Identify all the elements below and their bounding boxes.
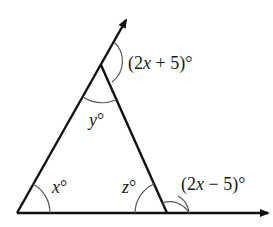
arc-left-interior: [33, 184, 50, 213]
label-left-interior: x°: [51, 177, 67, 197]
triangle-diagram: (2x + 5)° y° x° z° (2x − 5)°: [0, 0, 273, 227]
label-right-exterior: (2x − 5)°: [181, 174, 245, 195]
label-right-interior: z°: [121, 177, 136, 197]
label-apex-interior: y°: [87, 110, 104, 130]
arc-apex-interior: [83, 97, 116, 103]
label-top-exterior: (2x + 5)°: [128, 53, 192, 74]
arc-right-interior: [135, 184, 154, 213]
arc-top-exterior: [112, 42, 122, 82]
